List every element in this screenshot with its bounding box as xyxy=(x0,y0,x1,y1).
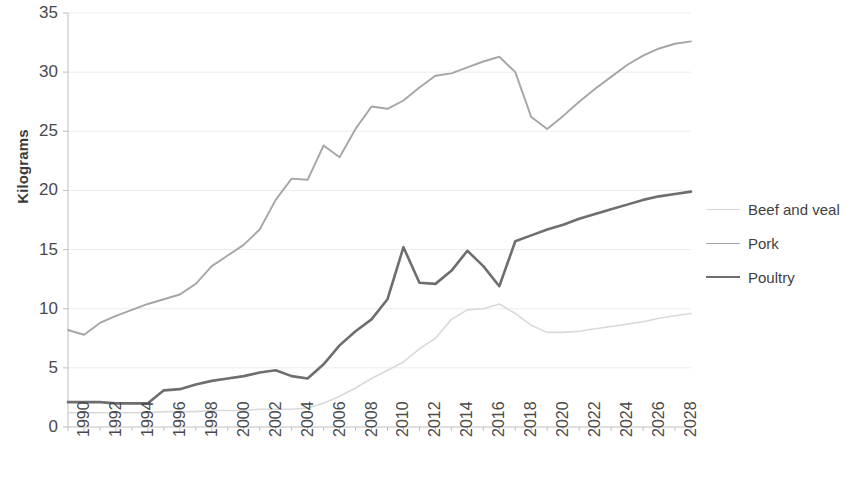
x-tick-label: 2010 xyxy=(395,401,411,437)
x-tick-label: 1998 xyxy=(204,401,220,437)
legend-item[interactable]: Poultry xyxy=(706,260,856,294)
legend: Beef and vealPorkPoultry xyxy=(706,192,856,294)
x-tick-label: 2018 xyxy=(523,401,539,437)
x-tick-label: 1996 xyxy=(172,401,188,437)
x-tick-label: 2000 xyxy=(236,401,252,437)
x-tick-label: 2026 xyxy=(651,401,667,437)
x-tick-label: 2014 xyxy=(459,401,475,437)
line-chart: Kilograms 05101520253035 199019921994199… xyxy=(0,0,856,483)
legend-item[interactable]: Pork xyxy=(706,226,856,260)
legend-label: Pork xyxy=(748,235,779,252)
x-tick-label: 2028 xyxy=(683,401,699,437)
legend-label: Poultry xyxy=(748,269,795,286)
legend-label: Beef and veal xyxy=(748,201,840,218)
x-tick-label: 2006 xyxy=(332,401,348,437)
legend-line-swatch-icon xyxy=(706,276,740,278)
x-tick-label: 1992 xyxy=(108,401,124,437)
x-tick-label: 2016 xyxy=(491,401,507,437)
legend-item[interactable]: Beef and veal xyxy=(706,192,856,226)
x-tick-label: 1994 xyxy=(140,401,156,437)
x-tick-label: 2004 xyxy=(300,401,316,437)
x-tick-label: 2002 xyxy=(268,401,284,437)
x-tick-label: 2024 xyxy=(619,401,635,437)
x-tick-label: 2022 xyxy=(587,401,603,437)
x-tick-label: 2008 xyxy=(364,401,380,437)
x-tick-label: 1990 xyxy=(76,401,92,437)
legend-line-swatch-icon xyxy=(706,209,740,210)
x-tick-label: 2012 xyxy=(427,401,443,437)
x-tick-label: 2020 xyxy=(555,401,571,437)
legend-line-swatch-icon xyxy=(706,243,740,244)
